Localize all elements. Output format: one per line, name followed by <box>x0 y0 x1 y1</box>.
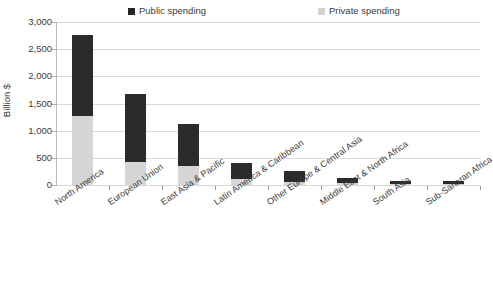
gridline <box>56 22 480 23</box>
bar-segment-public-spending[interactable] <box>72 35 93 116</box>
bar-group[interactable] <box>284 22 305 185</box>
gridline <box>56 131 480 132</box>
x-axis-tick-mark <box>374 186 375 190</box>
y-axis-tick-mark <box>52 158 57 159</box>
y-axis-tick-label: 2,500 <box>6 44 52 54</box>
bar-segment-public-spending[interactable] <box>178 124 199 166</box>
bar-group[interactable] <box>390 22 411 185</box>
y-axis-tick-mark <box>52 185 57 186</box>
y-axis-tick-label: 3,000 <box>6 17 52 27</box>
x-axis-tick-labels: North AmericaEuropean UnionEast Asia & P… <box>0 185 492 290</box>
y-axis-tick-mark <box>52 76 57 77</box>
y-axis-tick-mark <box>52 104 57 105</box>
bar-group[interactable] <box>178 22 199 185</box>
gridline <box>56 76 480 77</box>
legend-item-private-spending: Private spending <box>318 4 400 18</box>
x-axis-tick-mark <box>215 186 216 190</box>
bar-group[interactable] <box>231 22 252 185</box>
y-axis-tick-label: 2,000 <box>6 71 52 81</box>
y-axis-tick-mark <box>52 22 57 23</box>
bar-group[interactable] <box>125 22 146 185</box>
x-axis-tick-mark <box>321 186 322 190</box>
y-axis-tick-label: 1,000 <box>6 126 52 136</box>
x-axis-tick-mark <box>109 186 110 190</box>
x-axis-tick-mark <box>427 186 428 190</box>
bar-segment-public-spending[interactable] <box>125 94 146 162</box>
legend-swatch-private-icon <box>318 8 325 15</box>
legend-label-private: Private spending <box>329 6 400 16</box>
y-axis-tick-label: 500 <box>6 153 52 163</box>
y-axis-tick-mark <box>52 49 57 50</box>
x-axis-tick-mark <box>480 186 481 190</box>
gridline <box>56 49 480 50</box>
bar-group[interactable] <box>443 22 464 185</box>
bar-group[interactable] <box>337 22 358 185</box>
bar-group[interactable] <box>72 22 93 185</box>
x-axis-tick-mark <box>268 186 269 190</box>
legend-label-public: Public spending <box>139 6 206 16</box>
chart-legend: Public spending Private spending <box>0 2 492 20</box>
legend-item-public-spending: Public spending <box>128 4 206 18</box>
gridline <box>56 104 480 105</box>
y-axis-tick-label: 1,500 <box>6 99 52 109</box>
x-axis-tick-mark <box>162 186 163 190</box>
legend-swatch-public-icon <box>128 8 135 15</box>
y-axis-tick-mark <box>52 131 57 132</box>
